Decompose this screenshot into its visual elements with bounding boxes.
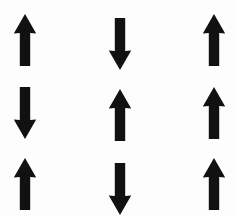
arrow-cell-r3c1 — [12, 157, 38, 211]
arrow-down-icon — [107, 17, 133, 71]
arrow-up-icon — [107, 88, 133, 142]
arrow-grid-stimulus — [0, 0, 237, 216]
arrow-up-icon — [12, 13, 38, 67]
arrow-cell-r2c2 — [107, 88, 133, 142]
arrow-cell-r2c1 — [12, 86, 38, 140]
arrow-cell-r2c3 — [201, 86, 227, 140]
arrow-cell-r3c2 — [107, 162, 133, 216]
arrow-up-icon — [201, 157, 227, 211]
arrow-cell-r3c3 — [201, 157, 227, 211]
arrow-up-icon — [12, 157, 38, 211]
arrow-cell-r1c3 — [201, 13, 227, 67]
arrow-down-icon — [107, 162, 133, 216]
arrow-up-icon — [201, 86, 227, 140]
arrow-down-icon — [12, 86, 38, 140]
arrow-up-icon — [201, 13, 227, 67]
arrow-cell-r1c1 — [12, 13, 38, 67]
arrow-cell-r1c2 — [107, 17, 133, 71]
